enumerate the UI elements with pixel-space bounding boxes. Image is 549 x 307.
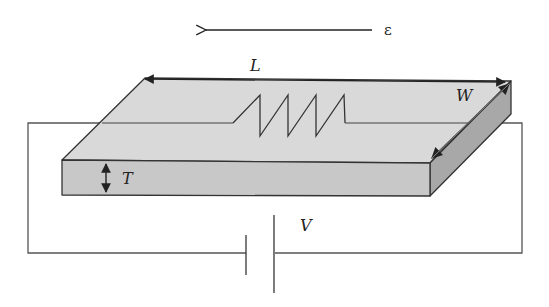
slab-front-face [62, 160, 430, 196]
width-label: W [456, 86, 474, 105]
strain-label: ε [384, 21, 392, 39]
thickness-label: T [122, 169, 134, 188]
voltage-label: V [300, 216, 313, 235]
strain-gauge-diagram: ε L W T V [0, 0, 549, 307]
length-label: L [249, 56, 261, 75]
battery-symbol [246, 215, 274, 293]
